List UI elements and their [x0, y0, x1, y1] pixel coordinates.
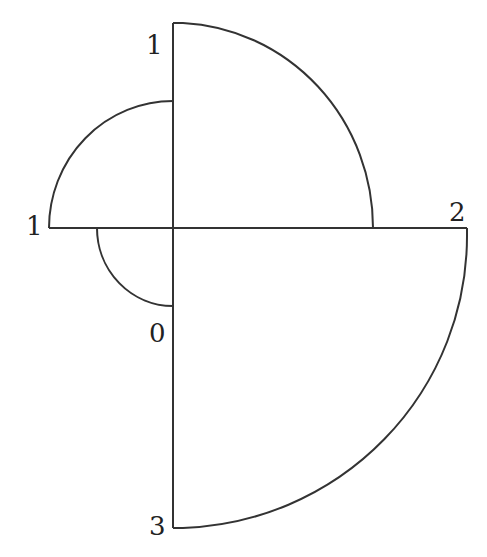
sector-upper-right	[173, 23, 373, 228]
label-left: 1	[26, 211, 43, 241]
label-bottom: 3	[149, 511, 166, 541]
sector-lower-right	[173, 228, 467, 528]
quadrant-diagram: 1 1 2 0 3	[0, 0, 487, 557]
sector-upper-left	[49, 101, 173, 228]
label-right: 2	[449, 197, 466, 227]
label-top: 1	[146, 30, 163, 60]
label-zero: 0	[149, 318, 166, 348]
sector-lower-left	[97, 228, 173, 306]
